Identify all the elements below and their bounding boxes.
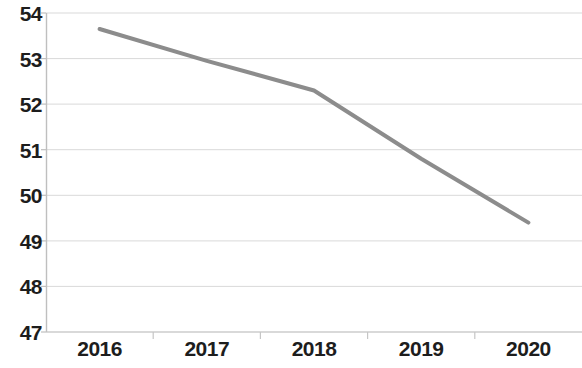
data-series-line: [100, 29, 529, 223]
y-axis-tick-label: 51: [2, 139, 42, 160]
x-axis-tick-label: 2017: [184, 336, 229, 361]
y-axis-tick-label: 50: [2, 185, 42, 206]
y-axis-tick-label: 48: [2, 276, 42, 297]
y-axis-tick-label: 49: [2, 230, 42, 251]
y-axis-tick-label: 52: [2, 94, 42, 115]
x-axis-tick-label: 2019: [399, 336, 444, 361]
y-axis-tick-labels: 4748495051525354: [0, 0, 42, 368]
line-chart: 4748495051525354 20162017201820192020: [0, 0, 582, 368]
x-axis-tick-label: 2016: [77, 336, 122, 361]
x-axis-tick-label: 2018: [292, 336, 337, 361]
data-series-group: [100, 29, 529, 223]
y-axis-tick-label: 54: [2, 3, 42, 24]
x-axis-tick-labels: 20162017201820192020: [46, 336, 582, 368]
x-axis-tick-label: 2020: [506, 336, 551, 361]
y-axis-tick-label: 47: [2, 322, 42, 343]
gridlines: [46, 13, 582, 332]
axis-lines: [41, 13, 582, 332]
chart-plot-area: [0, 0, 582, 368]
y-axis-tick-label: 53: [2, 48, 42, 69]
